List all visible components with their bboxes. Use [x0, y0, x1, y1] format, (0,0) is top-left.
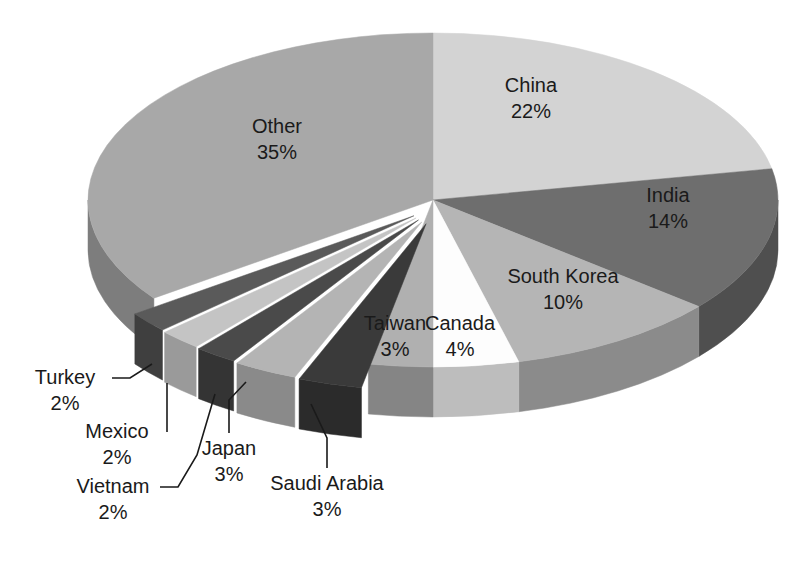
pie-label-name: Turkey — [35, 366, 95, 388]
pie-label-mexico: Mexico2% — [85, 420, 148, 468]
pie-label-name: Vietnam — [76, 475, 149, 497]
pie-label-saudi-arabia: Saudi Arabia3% — [270, 472, 384, 520]
pie-label-name: South Korea — [507, 265, 619, 287]
pie-label-value: 2% — [99, 501, 128, 523]
pie-slice-side-saudi-arabia — [299, 379, 361, 438]
pie-label-value: 3% — [313, 498, 342, 520]
pie-label-value: 4% — [446, 338, 475, 360]
pie-label-name: Mexico — [85, 420, 148, 442]
pie-label-value: 35% — [257, 141, 297, 163]
chart-page: China22%India14%South Korea10%Canada4%Ta… — [0, 0, 801, 571]
pie-slice-side-canada — [433, 362, 519, 417]
pie-label-value: 10% — [543, 291, 583, 313]
pie-label-value: 14% — [648, 210, 688, 232]
pie-slice-side-taiwan — [368, 364, 433, 417]
pie-label-value: 2% — [51, 392, 80, 414]
pie-label-value: 3% — [215, 463, 244, 485]
pie-label-value: 22% — [511, 100, 551, 122]
pie-label-turkey: Turkey2% — [35, 366, 95, 414]
pie-label-japan: Japan3% — [202, 437, 257, 485]
pie-label-name: Japan — [202, 437, 257, 459]
pie-label-name: Taiwan — [364, 312, 426, 334]
pie-label-value: 3% — [381, 338, 410, 360]
pie-label-name: India — [646, 184, 690, 206]
pie-label-name: Other — [252, 115, 302, 137]
pie-label-name: Canada — [425, 312, 496, 334]
pie-label-vietnam: Vietnam2% — [76, 475, 149, 523]
pie-chart-3d: China22%India14%South Korea10%Canada4%Ta… — [0, 0, 801, 571]
pie-label-name: China — [505, 74, 558, 96]
pie-label-value: 2% — [103, 446, 132, 468]
pie-label-name: Saudi Arabia — [270, 472, 384, 494]
